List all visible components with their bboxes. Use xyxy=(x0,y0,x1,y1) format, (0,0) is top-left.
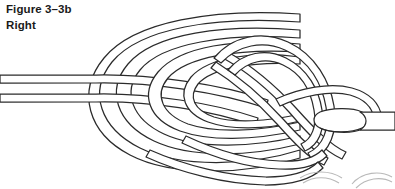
knot-diagram xyxy=(0,0,395,189)
figure-page: Figure 3–3b Right Left xyxy=(0,0,395,189)
page-bleed-artifact-right xyxy=(352,173,392,188)
